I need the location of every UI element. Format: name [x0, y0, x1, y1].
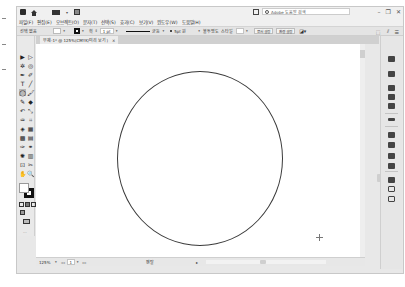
zoom-level-field[interactable]: 125%	[39, 260, 53, 265]
eyedropper-tool-icon[interactable]: ✑	[19, 143, 26, 150]
chevron-down-icon[interactable]: ▾	[63, 29, 65, 33]
direct-selection-tool-icon[interactable]: ▷	[27, 53, 34, 60]
chevron-down-icon[interactable]: ▾	[198, 29, 200, 33]
fill-color-box[interactable]	[19, 183, 29, 193]
panel-toggle-icon[interactable]	[253, 9, 259, 15]
arrange-icon[interactable]: ◪▾	[299, 28, 306, 34]
close-button[interactable]: ✕	[396, 8, 401, 15]
artboard-canvas[interactable]	[36, 44, 360, 257]
stroke-weight-stepper[interactable]: ⇕	[95, 29, 98, 33]
screen-mode-icon[interactable]	[23, 219, 30, 224]
hand-tool-icon[interactable]: ✋	[19, 170, 26, 177]
stroke-profile-label[interactable]: 균등	[152, 28, 160, 34]
horizontal-scroll-thumb[interactable]	[260, 260, 266, 264]
menu-edit[interactable]: 편집(E)	[37, 19, 52, 25]
document-setup-button[interactable]: 문서 설정	[254, 28, 273, 34]
magic-wand-tool-icon[interactable]: ✲	[19, 62, 26, 69]
swatches-panel-icon[interactable]	[388, 94, 395, 100]
minimize-button[interactable]: –	[378, 8, 381, 15]
menu-view[interactable]: 보기(V)	[139, 19, 154, 25]
asset-export-panel-icon[interactable]	[388, 196, 395, 202]
style-swatch[interactable]	[236, 28, 244, 34]
stroke-weight-field[interactable]: 1 pt	[100, 28, 114, 34]
arrange-documents-icon[interactable]	[74, 9, 80, 15]
perspective-grid-tool-icon[interactable]: ▦	[27, 125, 34, 132]
gradient-mode-icon[interactable]	[25, 202, 30, 207]
menu-file[interactable]: 파일(F)	[19, 19, 33, 25]
paintbrush-tool-icon[interactable]: 🖌	[27, 89, 34, 96]
slice-tool-icon[interactable]: ✂	[27, 161, 34, 168]
artboard-tool-icon[interactable]: ⊡	[19, 161, 26, 168]
shaper-tool-icon[interactable]: ✎	[19, 98, 26, 105]
more-tools-icon[interactable]: ···	[23, 230, 27, 235]
transparency-panel-icon[interactable]	[388, 142, 395, 148]
blend-tool-icon[interactable]: ⚭	[27, 143, 34, 150]
symbol-sprayer-tool-icon[interactable]: ✺	[19, 152, 26, 159]
first-artboard-button[interactable]: ◂◂	[61, 260, 65, 265]
mesh-tool-icon[interactable]: ▩	[19, 134, 26, 141]
chevron-down-icon[interactable]: ▾	[77, 260, 79, 264]
status-text[interactable]: 펜탈	[146, 259, 154, 265]
zoom-tool-icon[interactable]: 🔍	[27, 170, 34, 177]
chevron-down-icon[interactable]: ▾	[116, 29, 118, 33]
free-transform-tool-icon[interactable]: ⌗	[27, 116, 34, 123]
properties-panel-icon[interactable]	[388, 71, 395, 77]
opacity-label[interactable]: 불투명도	[203, 28, 219, 34]
gradient-panel-icon[interactable]	[388, 132, 395, 138]
symbols-panel-icon[interactable]	[388, 103, 395, 109]
align-icon[interactable]: ⫽	[387, 28, 389, 35]
menu-type[interactable]: 문자(T)	[83, 19, 97, 25]
artboards-panel-icon[interactable]	[388, 186, 395, 192]
warp-tool-icon[interactable]: ♒	[19, 116, 26, 123]
chevron-down-icon[interactable]: ▾	[162, 29, 164, 33]
rotate-tool-icon[interactable]: ↶	[19, 107, 26, 114]
menu-options-icon[interactable]: ☰	[395, 29, 399, 35]
ellipse-tool-icon[interactable]: ◯	[19, 89, 26, 96]
last-artboard-button[interactable]: ▸▸	[83, 260, 87, 265]
gradient-tool-icon[interactable]: ▤	[27, 134, 34, 141]
column-graph-tool-icon[interactable]: ▥	[27, 152, 34, 159]
type-tool-icon[interactable]: T	[19, 80, 26, 87]
help-search-input[interactable]: Adobe 도움말 검색	[262, 8, 350, 15]
brush-definition[interactable]: 5pt 원	[174, 28, 186, 34]
graphic-styles-panel-icon[interactable]	[388, 163, 395, 169]
draw-mode-icon[interactable]	[20, 210, 25, 215]
close-tab-icon[interactable]: ×	[112, 38, 115, 43]
pen-tool-icon[interactable]: ✒	[19, 71, 26, 78]
selection-tool-icon[interactable]: ▶	[19, 53, 26, 60]
stroke-profile-preview[interactable]	[126, 31, 150, 32]
stroke-swatch[interactable]	[74, 28, 80, 34]
status-menu-arrow-icon[interactable]: ▸	[196, 260, 198, 265]
color-mode-icon[interactable]	[19, 202, 24, 207]
transform-icon[interactable]: ⬚	[376, 29, 381, 35]
libraries-panel-icon[interactable]	[388, 85, 395, 91]
line-tool-icon[interactable]: ╱	[27, 80, 34, 87]
scale-tool-icon[interactable]: ⤡	[27, 107, 34, 114]
vertical-scroll-thumb[interactable]	[360, 50, 365, 58]
chevron-down-icon[interactable]: ▾	[66, 10, 68, 15]
style-label[interactable]: 스타일	[221, 28, 233, 34]
dock-resize-grip[interactable]	[377, 174, 381, 182]
document-tab[interactable]: 무제-1* @ 125%(CMYK/미리 보기) ×	[40, 36, 118, 44]
color-panel-icon[interactable]	[388, 56, 395, 62]
curvature-tool-icon[interactable]: ✐	[27, 71, 34, 78]
home-icon[interactable]	[31, 10, 37, 13]
menu-select[interactable]: 선택(S)	[101, 19, 116, 25]
stroke-panel-icon[interactable]	[388, 118, 395, 121]
preferences-button[interactable]: 환경 설정	[276, 28, 295, 34]
layers-panel-icon[interactable]	[388, 177, 395, 183]
chevron-down-icon[interactable]: ▾	[55, 260, 57, 264]
ellipse-shape[interactable]	[117, 71, 283, 246]
menu-effect[interactable]: 효과(C)	[120, 19, 135, 25]
horizontal-scrollbar[interactable]	[206, 260, 326, 264]
appearance-panel-icon[interactable]	[388, 153, 395, 159]
workspace-layout-icon[interactable]	[52, 10, 60, 15]
menu-window[interactable]: 윈도우(W)	[157, 19, 177, 25]
shape-builder-tool-icon[interactable]: ◈	[19, 125, 26, 132]
stroke-label[interactable]: 획	[89, 28, 93, 34]
menu-object[interactable]: 오브젝트(O)	[56, 19, 79, 25]
menu-help[interactable]: 도움말(H)	[182, 19, 201, 25]
chevron-down-icon[interactable]: ▾	[82, 29, 84, 33]
lasso-tool-icon[interactable]: ◎	[27, 62, 34, 69]
vertical-scrollbar[interactable]	[360, 44, 365, 257]
